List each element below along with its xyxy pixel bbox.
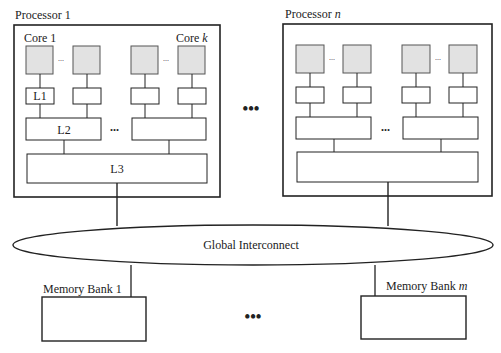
core-ellipsis: ... xyxy=(58,54,64,63)
l2-ellipsis: ... xyxy=(381,120,390,134)
memory-bank-m xyxy=(361,296,466,339)
l2-cache-n-2 xyxy=(403,117,478,139)
l3-cache-n xyxy=(297,152,478,182)
multiprocessor-diagram: Processor 1 Core 1 Core k ... ... L1 L2 … xyxy=(0,0,501,353)
core-k xyxy=(178,46,205,74)
processor-n xyxy=(283,24,492,196)
memory-bank-m-label: Memory Bank m xyxy=(386,279,468,293)
processor-ellipsis: ••• xyxy=(243,100,260,117)
l2-cache-n-1 xyxy=(296,117,371,139)
core-n-3 xyxy=(402,45,430,73)
memory-ellipsis: ••• xyxy=(245,308,262,325)
core-n-2 xyxy=(343,45,371,73)
l3-label: L3 xyxy=(110,162,123,176)
l2-label: L2 xyxy=(57,123,70,137)
core-1 xyxy=(26,46,53,74)
core-3 xyxy=(131,46,158,74)
core-k-label: Core k xyxy=(176,31,208,45)
l1-cache-n-1 xyxy=(296,87,324,103)
core-1-label: Core 1 xyxy=(24,31,56,45)
l1-cache-k xyxy=(178,88,206,104)
l1-cache-n-k xyxy=(449,87,477,103)
core-n-k xyxy=(449,45,477,73)
l2-cache-2 xyxy=(132,118,206,140)
interconnect-label: Global Interconnect xyxy=(203,238,299,252)
l1-cache-3 xyxy=(131,88,159,104)
memory-bank-1 xyxy=(42,297,146,341)
l2-ellipsis: ... xyxy=(110,120,119,134)
memory-bank-1-label: Memory Bank 1 xyxy=(43,282,122,296)
processor-1-title: Processor 1 xyxy=(15,8,71,22)
processor-n-title: Processor n xyxy=(285,7,341,21)
l1-cache-n-2 xyxy=(343,87,371,103)
l1-label: L1 xyxy=(33,89,46,103)
core-2 xyxy=(73,46,100,74)
core-n-1 xyxy=(296,45,324,73)
core-ellipsis: ... xyxy=(329,53,335,62)
l1-cache-2 xyxy=(73,88,101,104)
core-ellipsis: ... xyxy=(163,54,169,63)
l1-cache-n-3 xyxy=(402,87,430,103)
core-ellipsis: ... xyxy=(435,53,441,62)
